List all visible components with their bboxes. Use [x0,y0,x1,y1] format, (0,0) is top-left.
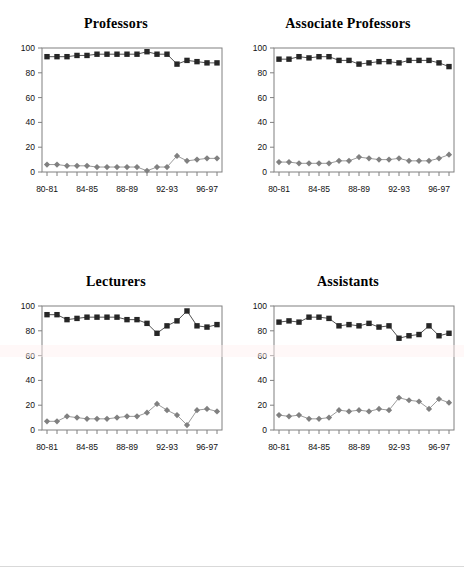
chart-title: Professors [0,4,232,32]
chart-panel-associate-professors: Associate Professors 02040608010080-8184… [232,4,464,254]
chart-svg-2: 02040608010080-8184-8588-8992-9396-97 [0,290,232,495]
svg-text:88-89: 88-89 [116,442,138,452]
chart-panel-assistants: Assistants 02040608010080-8184-8588-8992… [232,262,464,507]
chart-title: Assistants [232,262,464,290]
svg-text:0: 0 [30,425,35,435]
svg-text:84-85: 84-85 [308,184,330,194]
svg-text:88-89: 88-89 [348,442,370,452]
svg-text:92-93: 92-93 [156,442,178,452]
svg-text:20: 20 [258,142,268,152]
svg-text:96-97: 96-97 [428,184,450,194]
svg-text:96-97: 96-97 [196,442,218,452]
plot-area: 02040608010080-8184-8588-8992-9396-97 [0,290,232,495]
svg-text:60: 60 [258,93,268,103]
svg-text:60: 60 [26,93,36,103]
plot-area: 02040608010080-8184-8588-8992-9396-97 [232,290,464,495]
svg-text:92-93: 92-93 [388,442,410,452]
plot-area: 02040608010080-8184-8588-8992-9396-97 [232,32,464,237]
svg-text:80-81: 80-81 [36,442,58,452]
svg-text:40: 40 [26,117,36,127]
chart-panel-professors: Professors 02040608010080-8184-8588-8992… [0,4,232,254]
svg-text:80-81: 80-81 [268,442,290,452]
svg-text:84-85: 84-85 [76,442,98,452]
svg-text:60: 60 [26,351,36,361]
svg-text:80-81: 80-81 [36,184,58,194]
svg-text:0: 0 [262,167,267,177]
svg-text:0: 0 [30,167,35,177]
svg-text:100: 100 [21,43,35,53]
svg-text:80: 80 [26,326,36,336]
svg-text:84-85: 84-85 [76,184,98,194]
svg-text:80-81: 80-81 [268,184,290,194]
svg-text:88-89: 88-89 [348,184,370,194]
legend: Legend % Women % Men [0,500,464,562]
svg-text:92-93: 92-93 [388,184,410,194]
chart-title: Lecturers [0,262,232,290]
svg-text:40: 40 [258,117,268,127]
chart-svg-0: 02040608010080-8184-8588-8992-9396-97 [0,32,232,237]
svg-text:80: 80 [26,68,36,78]
svg-text:100: 100 [21,301,35,311]
chart-svg-1: 02040608010080-8184-8588-8992-9396-97 [232,32,464,237]
chart-panel-lecturers: Lecturers 02040608010080-8184-8588-8992-… [0,262,232,507]
plot-area: 02040608010080-8184-8588-8992-9396-97 [0,32,232,237]
svg-text:20: 20 [258,400,268,410]
chart-svg-3: 02040608010080-8184-8588-8992-9396-97 [232,290,464,495]
svg-text:92-93: 92-93 [156,184,178,194]
figure-grid: Professors 02040608010080-8184-8588-8992… [0,0,464,571]
svg-text:20: 20 [26,400,36,410]
svg-text:96-97: 96-97 [196,184,218,194]
svg-text:40: 40 [258,375,268,385]
chart-title: Associate Professors [232,4,464,32]
svg-text:88-89: 88-89 [116,184,138,194]
svg-text:60: 60 [258,351,268,361]
svg-text:80: 80 [258,326,268,336]
svg-text:84-85: 84-85 [308,442,330,452]
svg-text:0: 0 [262,425,267,435]
svg-text:100: 100 [253,301,267,311]
svg-text:40: 40 [26,375,36,385]
svg-text:100: 100 [253,43,267,53]
svg-text:96-97: 96-97 [428,442,450,452]
svg-text:20: 20 [26,142,36,152]
svg-text:80: 80 [258,68,268,78]
footer-divider [0,566,464,567]
